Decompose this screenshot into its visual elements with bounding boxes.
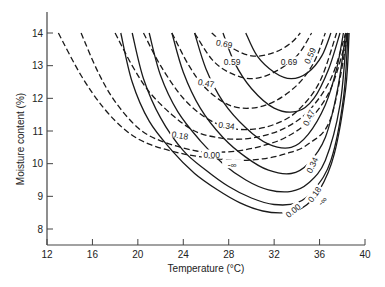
x-tick-label: 36 — [314, 249, 326, 260]
dashed-contour-0_47 — [172, 33, 325, 108]
contour-label: 0.59 — [224, 57, 241, 67]
y-axis-label: Moisture content (%) — [15, 93, 26, 185]
contour-label: 0.18 — [171, 129, 189, 142]
y-tick-label: 14 — [32, 28, 44, 39]
contour-label: 0.69 — [281, 57, 298, 67]
moisture-temperature-contour-chart: 1216202428323640891011121314 0.690.590.4… — [0, 0, 385, 287]
x-tick-label: 20 — [132, 249, 144, 260]
contour-label: 0.00 — [203, 150, 220, 160]
solid-contour-0_34 — [172, 33, 346, 174]
solid-contour-0_69 — [246, 33, 331, 79]
y-tick-label: 8 — [37, 224, 43, 235]
contour-labels: 0.690.590.470.340.180.00-∞0.690.590.470.… — [170, 36, 333, 219]
x-tick-label: 32 — [269, 249, 281, 260]
x-tick-label: 16 — [87, 249, 99, 260]
contour-label: 0.47 — [197, 77, 215, 90]
y-tick-label: 9 — [37, 191, 43, 202]
x-tick-label: 40 — [359, 249, 371, 260]
y-tick-label: 12 — [32, 93, 44, 104]
dashed-contour--inf — [58, 33, 348, 160]
x-tick-label: 12 — [41, 249, 53, 260]
chart-canvas: 1216202428323640891011121314 0.690.590.4… — [0, 0, 385, 287]
contour-label: 0.69 — [215, 37, 234, 50]
y-tick-label: 11 — [33, 126, 44, 137]
x-tick-label: 24 — [178, 249, 190, 260]
y-tick-label: 13 — [32, 60, 44, 71]
x-tick-label: 28 — [223, 249, 235, 260]
contour-label: 0.34 — [218, 120, 236, 132]
solid-contour-0_59 — [223, 33, 340, 112]
y-tick-label: 10 — [32, 158, 44, 169]
contour-label: -∞ — [228, 160, 237, 170]
x-axis-label: Temperature (°C) — [168, 263, 245, 274]
